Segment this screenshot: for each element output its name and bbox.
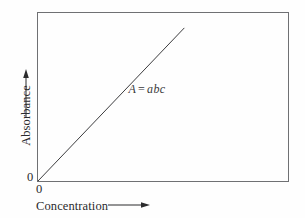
x-axis-label: Concentration xyxy=(36,199,108,213)
y-axis-label-group: Absorbance xyxy=(14,66,36,182)
x-axis-label-group: Concentration xyxy=(36,196,108,214)
plot-frame xyxy=(37,12,289,182)
equation-rhs: abc xyxy=(147,82,165,96)
equation-lhs: A xyxy=(128,82,136,96)
y-axis-label: Absorbance xyxy=(19,66,34,166)
beer-law-figure: Absorbance Concentration 0 0 A=abc xyxy=(0,0,305,218)
equation-annotation: A=abc xyxy=(128,82,165,97)
equation-operator: = xyxy=(136,82,147,96)
right-arrow-icon xyxy=(108,202,150,208)
y-axis-origin-label: 0 xyxy=(27,170,33,185)
x-axis-origin-label: 0 xyxy=(36,182,42,197)
